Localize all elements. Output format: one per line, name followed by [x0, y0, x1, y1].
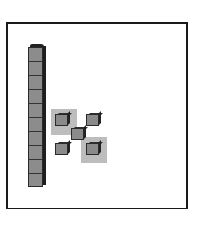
unit-cube-top-left [55, 113, 70, 126]
rod-unit-divider [28, 89, 43, 90]
unit-cube-bottom-left [55, 142, 70, 155]
rod-unit-divider [28, 61, 43, 62]
rod-unit-divider [28, 159, 43, 160]
rod-unit-divider [28, 131, 43, 132]
rod-unit-divider [28, 117, 43, 118]
rod-unit-divider [28, 75, 43, 76]
unit-cube-bottom-right [86, 142, 101, 155]
rod-unit-divider [28, 103, 43, 104]
rod-unit-divider [28, 145, 43, 146]
ten-rod-side [43, 46, 46, 185]
ten-rod [28, 44, 46, 187]
unit-cube-center [71, 127, 86, 140]
rod-unit-divider [28, 173, 43, 174]
unit-cube-top-right [86, 113, 101, 126]
